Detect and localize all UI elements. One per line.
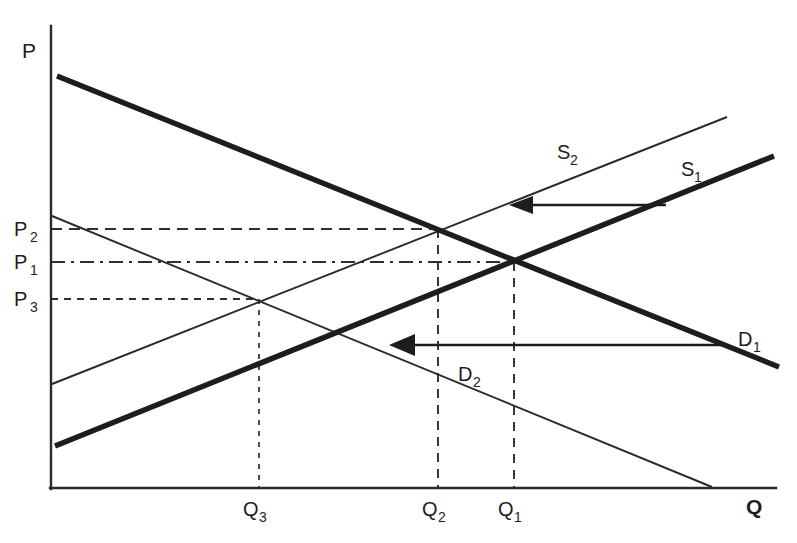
- price-tick-label-p1: P 1: [14, 251, 38, 278]
- curve-label-d2-subscript: 2: [473, 374, 481, 390]
- curve-label-s2-subscript: 2: [570, 152, 578, 168]
- price-tick-labels: P 2 P 1 P 3: [14, 218, 38, 315]
- quantity-tick-labels: Q 3 Q 2 Q 1: [243, 498, 522, 525]
- curve-label-d1-subscript: 1: [753, 339, 761, 355]
- curve-label-s1: S 1: [681, 158, 702, 185]
- price-tick-label-p3: P 3: [14, 288, 38, 315]
- quantity-tick-q2-base: Q: [422, 498, 438, 520]
- quantity-tick-label-q3: Q 3: [243, 498, 267, 525]
- curves-group: [52, 76, 779, 487]
- quantity-tick-q1-base: Q: [498, 498, 514, 520]
- supply-demand-diagram: P Q P 2 P 1 P 3 Q 3 Q 2: [0, 0, 797, 543]
- quantity-tick-q3-subscript: 3: [259, 509, 267, 525]
- quantity-guide-lines: [259, 229, 514, 488]
- price-tick-p3-base: P: [14, 288, 27, 310]
- quantity-tick-q1-subscript: 1: [514, 509, 522, 525]
- demand-original-curve-d1: [57, 76, 779, 367]
- y-axis-label: P: [22, 39, 36, 62]
- quantity-tick-label-q2: Q 2: [422, 498, 446, 525]
- curve-label-d2: D 2: [458, 363, 481, 390]
- price-tick-p1-base: P: [14, 251, 27, 273]
- price-tick-p2-subscript: 2: [30, 229, 38, 245]
- price-tick-p1-subscript: 1: [30, 262, 38, 278]
- supply-original-curve-s1: [55, 156, 774, 446]
- demand-shifted-curve-d2: [52, 216, 712, 487]
- curve-label-s2-base: S: [557, 141, 570, 163]
- quantity-tick-label-q1: Q 1: [498, 498, 522, 525]
- price-tick-p3-subscript: 3: [30, 299, 38, 315]
- chart-canvas: P Q P 2 P 1 P 3 Q 3 Q 2: [0, 0, 797, 543]
- quantity-tick-q3-base: Q: [243, 498, 259, 520]
- axes-group: [50, 26, 776, 489]
- demand-shift-arrow-head: [389, 334, 415, 356]
- quantity-tick-q2-subscript: 2: [438, 509, 446, 525]
- curve-label-s1-base: S: [681, 158, 694, 180]
- price-tick-p2-base: P: [14, 218, 27, 240]
- curve-label-s2: S 2: [557, 141, 578, 168]
- demand-shift-arrow: [389, 334, 726, 356]
- price-tick-label-p2: P 2: [14, 218, 38, 245]
- x-axis-label: Q: [746, 495, 762, 518]
- curve-label-s1-subscript: 1: [694, 169, 702, 185]
- curve-label-d2-base: D: [458, 363, 472, 385]
- curve-label-d1-base: D: [738, 328, 752, 350]
